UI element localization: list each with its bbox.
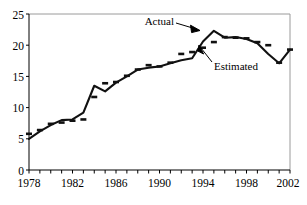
y-tick-label: 20 bbox=[13, 40, 25, 52]
chart-container: 25 20 15 10 5 0 1978 1982 1986 1990 1994… bbox=[0, 0, 307, 205]
x-tick-label: 1986 bbox=[105, 177, 128, 189]
x-axis-labels: 1978 1982 1986 1990 1994 1998 2002 bbox=[18, 177, 300, 189]
y-tick-label: 25 bbox=[13, 9, 25, 21]
x-tick-label: 1998 bbox=[235, 177, 258, 189]
actual-arrowhead bbox=[191, 25, 201, 32]
x-tick-label: 1978 bbox=[18, 177, 41, 189]
axis-lines bbox=[29, 14, 290, 170]
y-tick-label: 10 bbox=[13, 102, 25, 114]
x-tick-marks bbox=[29, 170, 290, 174]
y-tick-label: 5 bbox=[18, 133, 24, 145]
y-tick-label: 0 bbox=[18, 165, 24, 177]
x-tick-label: 1994 bbox=[192, 177, 215, 189]
line-chart: 25 20 15 10 5 0 1978 1982 1986 1990 1994… bbox=[0, 0, 307, 205]
plot-frame bbox=[29, 14, 290, 170]
estimated-annotation-label: Estimated bbox=[214, 60, 258, 72]
x-tick-label: 2002 bbox=[277, 177, 300, 189]
y-axis-labels: 25 20 15 10 5 0 bbox=[13, 9, 25, 177]
actual-annotation-label: Actual bbox=[145, 15, 174, 27]
y-tick-label: 15 bbox=[13, 71, 25, 83]
actual-series bbox=[29, 31, 290, 139]
x-tick-label: 1990 bbox=[148, 177, 171, 189]
x-tick-label: 1982 bbox=[61, 177, 84, 189]
